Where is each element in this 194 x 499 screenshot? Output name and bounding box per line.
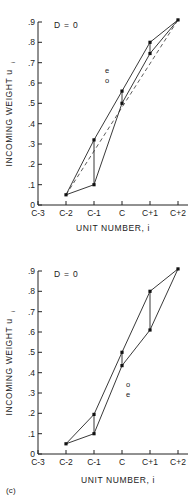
x-tick-label: C+1: [142, 208, 158, 218]
y-tick-label: .2: [28, 408, 35, 418]
x-tick-marks: [38, 201, 178, 205]
y-tick-marks: [38, 271, 42, 454]
y-tick-label: .5: [28, 347, 35, 357]
y-tick-label: .6: [28, 327, 35, 337]
curve-tag-lower: e: [126, 390, 130, 399]
y-tick-marks: [38, 22, 42, 205]
curve-tag-lower: o: [105, 76, 109, 85]
y-axis-title: INCOMING WEIGHT u: [4, 70, 14, 167]
y-tick-label: .2: [28, 159, 35, 169]
curve-tag-upper: o: [126, 380, 130, 389]
chart-bottom-svg: 0 .1 .2 .3 .4 .5 .6 .7 .8 .9 C-3 C-2 C-1…: [0, 243, 194, 499]
y-tick-label: .1: [28, 180, 35, 190]
data-point: [64, 193, 67, 196]
y-tick-labels: 0 .1 .2 .3 .4 .5 .6 .7 .8 .9: [28, 17, 35, 210]
data-point: [92, 413, 95, 416]
reference-dashed-line: [66, 20, 178, 195]
chart-panel-top: 0 .1 .2 .3 .4 .5 .6 .7 .8 .9 C-3 C-2 C-1…: [0, 0, 194, 243]
data-point: [64, 442, 67, 445]
x-tick-label: C+1: [142, 457, 158, 467]
y-axis-title-group: INCOMING WEIGHT u i: [4, 311, 16, 416]
y-tick-label: .7: [28, 58, 35, 68]
y-tick-labels: 0 .1 .2 .3 .4 .5 .6 .7 .8 .9: [28, 266, 35, 459]
x-tick-label: C: [119, 457, 125, 467]
x-tick-label: C-1: [87, 457, 101, 467]
data-point: [92, 432, 95, 435]
data-point: [148, 290, 151, 293]
data-point: [176, 18, 179, 21]
data-point: [120, 364, 123, 367]
y-tick-label: .6: [28, 78, 35, 88]
chart-top-svg: 0 .1 .2 .3 .4 .5 .6 .7 .8 .9 C-3 C-2 C-1…: [0, 0, 194, 243]
y-axis-title-subscript: i: [10, 62, 16, 63]
panel-label: (c): [6, 486, 16, 495]
y-tick-label: .8: [28, 286, 35, 296]
x-tick-label: C-3: [31, 457, 45, 467]
data-point: [92, 138, 95, 141]
y-axis-title-subscript: i: [10, 311, 16, 312]
data-point: [92, 183, 95, 186]
x-tick-label: C-2: [59, 208, 73, 218]
x-tick-label: C-2: [59, 457, 73, 467]
x-tick-labels: C-3 C-2 C-1 C C+1 C+2: [31, 457, 186, 467]
curve-tag-upper: e: [105, 66, 109, 75]
x-tick-labels: C-3 C-2 C-1 C C+1 C+2: [31, 208, 186, 218]
annotation-D: D = 0: [54, 269, 79, 279]
y-tick-label: .4: [28, 119, 35, 129]
y-tick-label: .1: [28, 429, 35, 439]
data-point: [148, 328, 151, 331]
y-tick-label: .4: [28, 368, 35, 378]
data-point: [120, 351, 123, 354]
x-axis-title: UNIT NUMBER, i: [76, 223, 150, 233]
x-tick-label: C+2: [170, 208, 186, 218]
y-tick-label: .3: [28, 139, 35, 149]
y-axis-title-group: INCOMING WEIGHT u i: [4, 62, 16, 167]
x-tick-label: C: [119, 208, 125, 218]
annotation-D: D = 0: [54, 20, 79, 30]
chart-panel-bottom: 0 .1 .2 .3 .4 .5 .6 .7 .8 .9 C-3 C-2 C-1…: [0, 243, 194, 499]
data-point: [176, 267, 179, 270]
data-point: [148, 52, 151, 55]
y-tick-label: .9: [28, 266, 35, 276]
y-tick-label: .3: [28, 388, 35, 398]
vertical-connectors: [94, 42, 150, 184]
x-axis-title: UNIT NUMBER, i: [81, 475, 155, 485]
y-tick-label: .8: [28, 37, 35, 47]
x-tick-marks: [38, 450, 178, 454]
data-point: [120, 90, 123, 93]
x-tick-label: C-1: [87, 208, 101, 218]
data-point: [148, 41, 151, 44]
data-point: [120, 102, 123, 105]
x-tick-label: C+2: [170, 457, 186, 467]
y-tick-label: .5: [28, 98, 35, 108]
y-tick-label: .7: [28, 307, 35, 317]
y-axis-title: INCOMING WEIGHT u: [4, 319, 14, 416]
y-tick-label: .9: [28, 17, 35, 27]
x-tick-label: C-3: [31, 208, 45, 218]
